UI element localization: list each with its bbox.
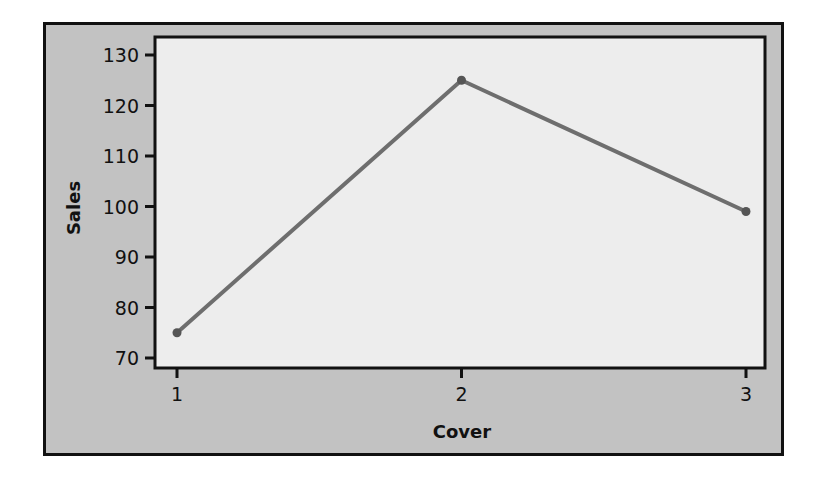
plot-area xyxy=(155,37,765,368)
x-tick-label: 2 xyxy=(455,383,467,405)
y-axis-label: Sales xyxy=(63,181,84,235)
x-tick-label: 1 xyxy=(171,383,183,405)
data-point-marker xyxy=(742,207,751,216)
y-tick-label: 80 xyxy=(115,297,139,319)
y-tick-label: 100 xyxy=(103,196,139,218)
line-chart: 708090100110120130 123 Sales Cover xyxy=(0,0,822,478)
y-tick-label: 90 xyxy=(115,246,139,268)
x-axis: 123 xyxy=(171,368,752,405)
x-tick-label: 3 xyxy=(740,383,752,405)
y-tick-label: 130 xyxy=(103,44,139,66)
data-point-marker xyxy=(173,328,182,337)
y-tick-label: 70 xyxy=(115,347,139,369)
data-point-marker xyxy=(457,76,466,85)
y-tick-label: 110 xyxy=(103,145,139,167)
y-axis: 708090100110120130 xyxy=(103,44,155,369)
x-axis-label: Cover xyxy=(433,421,492,442)
y-tick-label: 120 xyxy=(103,95,139,117)
